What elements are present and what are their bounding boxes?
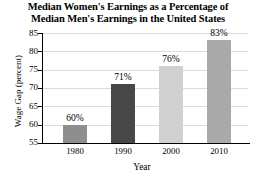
y-tick-label: 80 [16,47,38,56]
chart-title-line-2: Median Men's Earnings in the United Stat… [0,13,256,25]
bar-value-label: 60% [55,113,95,123]
chart-title: Median Women's Earnings as a Percentage … [0,1,256,25]
y-tick-label: 70 [16,83,38,92]
y-tick-label: 60 [16,120,38,129]
y-tick-label: 65 [16,102,38,111]
x-tick-label-1990: 1990 [100,146,146,156]
bar-value-label: 71% [103,72,143,82]
x-axis-label: Year [42,162,242,172]
bar-value-label: 83% [199,28,239,38]
y-tick-label: 75 [16,65,38,74]
x-tick-label-2010: 2010 [196,146,242,156]
x-axis-line [42,143,250,144]
y-tick-label: 85 [16,29,38,38]
bar-2010[interactable] [207,40,231,143]
bar-1980[interactable] [63,125,87,143]
x-tick-label-2000: 2000 [148,146,194,156]
bar-2000[interactable] [159,66,183,143]
bar-value-label: 76% [151,54,191,64]
chart-title-line-1: Median Women's Earnings as a Percentage … [0,1,256,13]
y-axis-tick-labels: 85 80 75 70 65 60 55 [16,33,38,144]
bar-series: 60% 71% 76% 83% [42,33,248,143]
bar-chart: Median Women's Earnings as a Percentage … [0,0,256,182]
bar-1990[interactable] [111,84,135,143]
x-tick-label-1980: 1980 [52,146,98,156]
y-tick-label: 55 [16,138,38,147]
